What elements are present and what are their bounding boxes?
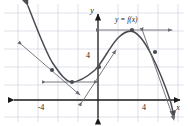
point-e <box>153 50 157 54</box>
y-axis-label: y <box>89 6 94 15</box>
point-d-local-maximum <box>130 28 134 32</box>
graph-canvas: y = f(x) -4 4 4 y x <box>0 0 188 126</box>
grid-lines <box>4 4 184 122</box>
curve-y-equals-f-of-x <box>28 6 174 118</box>
x-tick-label-negative-4: -4 <box>38 103 45 112</box>
point-a <box>50 68 54 72</box>
graph-figure: y = f(x) -4 4 4 y x <box>0 0 188 126</box>
labels: y = f(x) -4 4 4 y x <box>38 6 181 112</box>
marked-points <box>50 28 157 84</box>
tangent-at-point-e <box>143 32 174 120</box>
y-tick-label-4: 4 <box>86 51 90 60</box>
curve-label: y = f(x) <box>114 15 138 24</box>
x-axis-label: x <box>175 103 180 112</box>
point-b-local-minimum <box>70 80 74 84</box>
x-tick-label-4: 4 <box>142 103 146 112</box>
function-curve <box>28 6 174 118</box>
point-c <box>97 65 101 69</box>
